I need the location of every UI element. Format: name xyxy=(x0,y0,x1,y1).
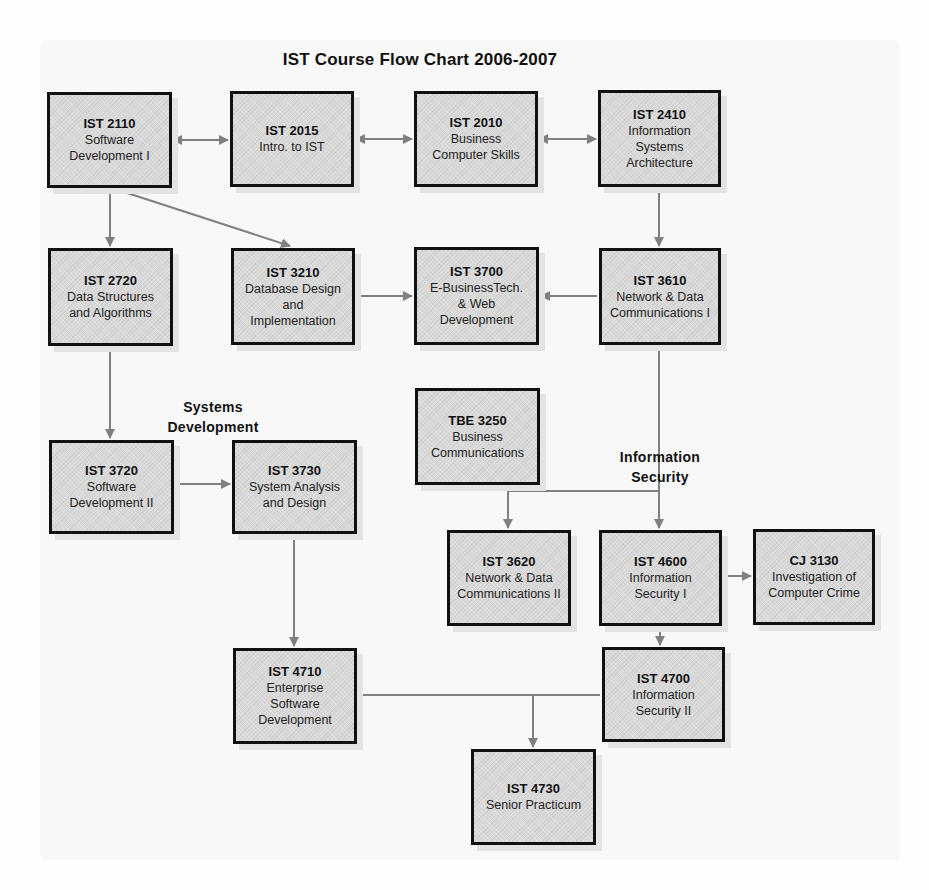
course-box-ist-3720[interactable]: IST 3720 Software Development II xyxy=(49,440,174,534)
course-box-ist-2720[interactable]: IST 2720 Data Structures and Algorithms xyxy=(48,248,173,346)
course-code: IST 2110 xyxy=(83,116,135,132)
course-code: IST 3610 xyxy=(634,273,687,289)
course-box-ist-3730[interactable]: IST 3730 System Analysis and Design xyxy=(232,440,357,534)
course-name: Data Structures and Algorithms xyxy=(67,289,154,321)
course-name: Intro. to IST xyxy=(259,139,324,155)
course-code: IST 3730 xyxy=(268,463,321,479)
course-code: IST 3620 xyxy=(483,554,536,570)
course-code: IST 3700 xyxy=(450,264,503,280)
course-box-ist-2110[interactable]: IST 2110 Software Development I xyxy=(47,92,172,188)
course-name: Database Design and Implementation xyxy=(245,281,341,329)
course-name: Network & Data Communications I xyxy=(610,289,710,321)
course-code: IST 3720 xyxy=(85,463,138,479)
course-code: IST 2010 xyxy=(450,115,503,131)
course-code: TBE 3250 xyxy=(448,413,507,429)
course-box-ist-2010[interactable]: IST 2010 Business Computer Skills xyxy=(414,91,538,187)
course-name: Network & Data Communications II xyxy=(457,570,561,602)
course-name: Business Computer Skills xyxy=(432,131,520,163)
group-label-systems-development: Systems Development xyxy=(158,397,268,437)
course-box-ist-3700[interactable]: IST 3700 E-BusinessTech. & Web Developme… xyxy=(414,247,539,345)
course-name: Software Development I xyxy=(69,132,150,164)
course-box-ist-2410[interactable]: IST 2410 Information Systems Architectur… xyxy=(598,90,721,187)
course-name: E-BusinessTech. & Web Development xyxy=(430,280,523,328)
course-name: Enterprise Software Development xyxy=(258,680,332,728)
group-label-information-security: Information Security xyxy=(605,447,715,487)
course-code: IST 3210 xyxy=(267,265,320,281)
course-code: IST 4710 xyxy=(269,664,322,680)
course-name: Information Security II xyxy=(632,687,695,719)
course-box-ist-3620[interactable]: IST 3620 Network & Data Communications I… xyxy=(447,530,571,626)
course-box-ist-3210[interactable]: IST 3210 Database Design and Implementat… xyxy=(231,248,355,345)
course-box-ist-4730[interactable]: IST 4730 Senior Practicum xyxy=(471,749,596,845)
course-box-ist-3610[interactable]: IST 3610 Network & Data Communications I xyxy=(599,248,721,345)
course-box-ist-4700[interactable]: IST 4700 Information Security II xyxy=(602,647,725,742)
course-code: IST 4700 xyxy=(637,671,690,687)
course-code: IST 2015 xyxy=(266,123,319,139)
course-name: Business Communications xyxy=(431,429,524,461)
course-name: Information Security I xyxy=(629,570,692,602)
course-box-ist-4710[interactable]: IST 4710 Enterprise Software Development xyxy=(233,648,357,744)
course-name: Information Systems Architecture xyxy=(626,123,693,171)
course-box-ist-2015[interactable]: IST 2015 Intro. to IST xyxy=(230,91,354,187)
course-name: System Analysis and Design xyxy=(249,479,340,511)
course-code: IST 4730 xyxy=(507,781,560,797)
course-box-ist-4600[interactable]: IST 4600 Information Security I xyxy=(599,530,722,626)
course-box-tbe-3250[interactable]: TBE 3250 Business Communications xyxy=(415,388,540,485)
course-code: CJ 3130 xyxy=(789,553,838,569)
course-name: Investigation of Computer Crime xyxy=(768,569,860,601)
course-name: Software Development II xyxy=(69,479,153,511)
course-code: IST 4600 xyxy=(634,554,687,570)
course-box-cj-3130[interactable]: CJ 3130 Investigation of Computer Crime xyxy=(753,529,875,625)
course-name: Senior Practicum xyxy=(486,797,581,813)
course-code: IST 2720 xyxy=(84,273,137,289)
course-code: IST 2410 xyxy=(633,107,686,123)
